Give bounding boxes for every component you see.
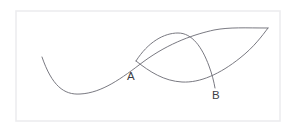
curve-s-shape xyxy=(42,28,268,94)
intersection-label-b: B xyxy=(212,89,220,101)
diagram-canvas: A B xyxy=(0,0,296,134)
intersection-label-a: A xyxy=(127,70,135,82)
curve-intersection-figure: A B xyxy=(0,0,296,134)
curve-lower-arc xyxy=(136,28,268,82)
curve-arc-hump xyxy=(136,33,215,88)
